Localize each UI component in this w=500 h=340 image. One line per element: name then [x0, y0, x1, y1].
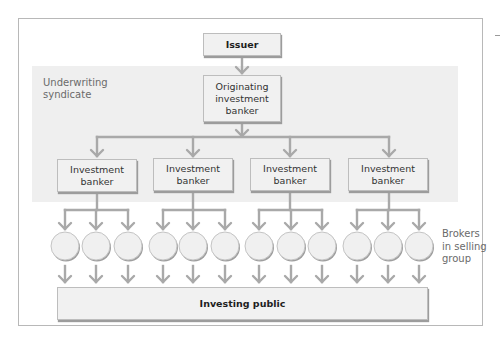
investing-public-box: Investing public	[57, 287, 428, 320]
investment-banker-box: Investment banker	[57, 159, 137, 192]
issuer-box: Issuer	[203, 33, 281, 56]
syndicate-label: Underwriting syndicate	[43, 77, 133, 101]
brokers-label: Brokers in selling group	[442, 228, 492, 266]
underwriting-diagram: Underwriting syndicate Issuer Originatin…	[0, 0, 500, 340]
investment-banker-box: Investment banker	[153, 158, 233, 191]
margin-mark	[495, 35, 500, 36]
originating-banker-box: Originating investment banker	[203, 75, 281, 122]
investment-banker-box: Investment banker	[348, 158, 428, 191]
investment-banker-box: Investment banker	[250, 158, 330, 191]
